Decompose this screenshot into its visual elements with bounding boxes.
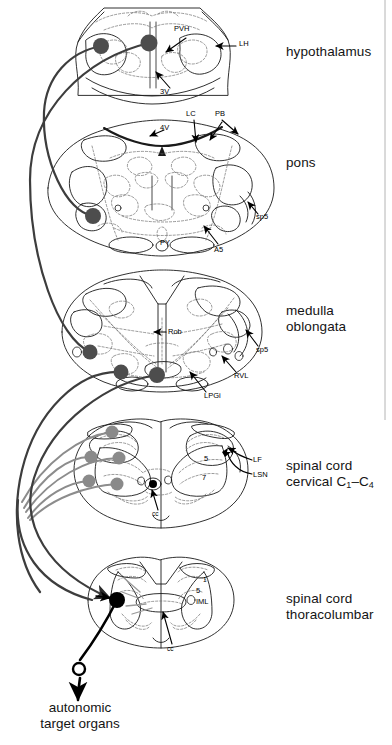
region-label-cervical-main: spinal cord cervical C [286, 458, 352, 489]
region-label-spinal-cord-thoracolumbar: spinal cord thoracolumbar [286, 591, 374, 622]
anno-cerv-5: 5 [204, 454, 208, 464]
terminal-label-autonomic-target-organs: autonomic target organs [22, 700, 138, 732]
figure-canvas: PVH LH 3V 4V LC PB sp5 PY A5 Rob sp5 RVL… [0, 0, 392, 745]
region-label-cervical-sub2: 4 [369, 480, 374, 490]
region-label-cervical-c2: C [359, 474, 369, 489]
anno-PVH: PVH [174, 24, 189, 34]
anno-Rob: Rob [168, 327, 182, 337]
frame-layer [0, 0, 392, 745]
anno-PY: PY [160, 238, 170, 248]
anno-thor-5: 5 [196, 586, 200, 596]
region-label-medulla-oblongata: medulla oblongata [286, 303, 346, 334]
region-label-cervical-dash: – [351, 474, 359, 489]
anno-LF: LF [253, 455, 262, 465]
region-label-hypothalamus: hypothalamus [286, 44, 371, 60]
anno-cerv-7: 7 [202, 473, 206, 483]
anno-LSN: LSN [253, 470, 268, 480]
anno-IML: IML [196, 597, 209, 607]
anno-sp5-pons: sp5 [256, 212, 268, 222]
region-label-spinal-cord-cervical: spinal cord cervical C1–C4 [286, 458, 374, 489]
anno-LC: LC [186, 109, 196, 119]
anno-LH: LH [239, 39, 249, 49]
anno-3V: 3V [160, 87, 169, 97]
anno-thor-cc: cc [167, 644, 174, 654]
region-label-pons: pons [286, 155, 316, 171]
anno-LPGi: LPGi [204, 391, 221, 401]
anno-A5: A5 [214, 245, 223, 255]
anno-cerv-cc: cc [152, 509, 159, 519]
anno-4V: 4V [160, 123, 169, 133]
anno-thor-1: 1 [203, 575, 207, 585]
anno-sp5-medulla: sp5 [256, 345, 268, 355]
anno-RVL: RVL [234, 371, 248, 381]
anno-PB: PB [215, 109, 225, 119]
